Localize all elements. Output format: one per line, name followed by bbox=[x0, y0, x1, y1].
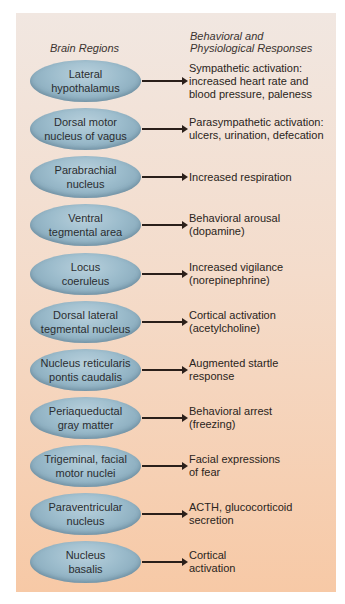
arrow-right-icon bbox=[142, 80, 185, 82]
row-trigeminal-facial: Trigeminal, facial motor nuclei Facial e… bbox=[0, 443, 345, 489]
response-label: Increased respiration bbox=[189, 171, 292, 184]
row-paraventricular-nucleus: Paraventricular nucleus ACTH, glucocorti… bbox=[0, 491, 345, 537]
response-text: Augmented startle response bbox=[189, 347, 339, 393]
response-label: Parasympathetic activation: ulcers, urin… bbox=[189, 116, 324, 142]
response-label: Cortical activation bbox=[189, 549, 235, 575]
responses-header: Behavioral and Physiological Responses bbox=[190, 30, 312, 54]
brain-region-label: Nucleus basalis bbox=[66, 548, 106, 576]
arrow-right-icon bbox=[142, 513, 185, 515]
brain-region-label: Dorsal lateral tegmental nucleus bbox=[41, 308, 130, 336]
response-text: Behavioral arousal (dopamine) bbox=[189, 202, 339, 248]
brain-region-ellipse: Ventral tegmental area bbox=[30, 204, 141, 246]
row-dorsal-lateral-tegmental: Dorsal lateral tegmental nucleus Cortica… bbox=[0, 299, 345, 345]
arrow-right-icon bbox=[142, 561, 185, 563]
response-text: Behavioral arrest (freezing) bbox=[189, 395, 339, 441]
row-periaqueductal-gray: Periaqueductal gray matter Behavioral ar… bbox=[0, 395, 345, 441]
brain-regions-header: Brain Regions bbox=[50, 42, 119, 54]
response-text: Sympathetic activation: increased heart … bbox=[189, 58, 339, 104]
response-text: Facial expressions of fear bbox=[189, 443, 339, 489]
brain-region-ellipse: Lateral hypothalamus bbox=[30, 60, 141, 102]
arrow-right-icon bbox=[142, 128, 185, 130]
arrow-right-icon bbox=[142, 273, 185, 275]
response-label: ACTH, glucocorticoid secretion bbox=[189, 501, 292, 527]
brain-region-label: Parabrachial nucleus bbox=[55, 163, 117, 191]
brain-region-label: Locus coeruleus bbox=[62, 260, 110, 288]
brain-region-ellipse: Locus coeruleus bbox=[30, 253, 141, 295]
arrow-right-icon bbox=[142, 224, 185, 226]
response-text: Cortical activation (acetylcholine) bbox=[189, 299, 339, 345]
response-text: Increased vigilance (norepinephrine) bbox=[189, 251, 339, 297]
brain-region-label: Periaqueductal gray matter bbox=[49, 404, 122, 432]
brain-region-label: Dorsal motor nucleus of vagus bbox=[44, 115, 127, 143]
arrow-right-icon bbox=[142, 417, 185, 419]
row-nucleus-basalis: Nucleus basalis Cortical activation bbox=[0, 539, 345, 585]
brain-region-ellipse: Nucleus basalis bbox=[30, 541, 141, 583]
brain-region-label: Nucleus reticularis pontis caudalis bbox=[41, 356, 131, 384]
arrow-right-icon bbox=[142, 176, 185, 178]
arrow-right-icon bbox=[142, 321, 185, 323]
brain-region-ellipse: Dorsal lateral tegmental nucleus bbox=[30, 301, 141, 343]
brain-region-label: Paraventricular nucleus bbox=[49, 500, 123, 528]
response-label: Sympathetic activation: increased heart … bbox=[189, 62, 312, 101]
brain-region-ellipse: Trigeminal, facial motor nuclei bbox=[30, 445, 141, 487]
response-label: Cortical activation (acetylcholine) bbox=[189, 309, 276, 335]
response-text: Cortical activation bbox=[189, 539, 339, 585]
brain-region-ellipse: Nucleus reticularis pontis caudalis bbox=[30, 349, 141, 391]
row-ventral-tegmental-area: Ventral tegmental area Behavioral arousa… bbox=[0, 202, 345, 248]
response-label: Behavioral arrest (freezing) bbox=[189, 405, 272, 431]
brain-region-ellipse: Periaqueductal gray matter bbox=[30, 397, 141, 439]
row-parabrachial-nucleus: Parabrachial nucleus Increased respirati… bbox=[0, 154, 345, 200]
arrow-right-icon bbox=[142, 465, 185, 467]
response-text: Parasympathetic activation: ulcers, urin… bbox=[189, 106, 339, 152]
brain-region-label: Lateral hypothalamus bbox=[51, 67, 120, 95]
response-text: ACTH, glucocorticoid secretion bbox=[189, 491, 339, 537]
brain-region-ellipse: Dorsal motor nucleus of vagus bbox=[30, 108, 141, 150]
row-nucleus-reticularis: Nucleus reticularis pontis caudalis Augm… bbox=[0, 347, 345, 393]
arrow-right-icon bbox=[142, 369, 185, 371]
brain-region-ellipse: Parabrachial nucleus bbox=[30, 156, 141, 198]
row-dorsal-motor-nucleus: Dorsal motor nucleus of vagus Parasympat… bbox=[0, 106, 345, 152]
response-text: Increased respiration bbox=[189, 154, 339, 200]
brain-region-ellipse: Paraventricular nucleus bbox=[30, 493, 141, 535]
response-label: Increased vigilance (norepinephrine) bbox=[189, 261, 283, 287]
row-lateral-hypothalamus: Lateral hypothalamus Sympathetic activat… bbox=[0, 58, 345, 104]
response-label: Augmented startle response bbox=[189, 357, 278, 383]
response-label: Behavioral arousal (dopamine) bbox=[189, 212, 280, 238]
brain-region-label: Ventral tegmental area bbox=[49, 211, 122, 239]
response-label: Facial expressions of fear bbox=[189, 453, 280, 479]
brain-region-label: Trigeminal, facial motor nuclei bbox=[44, 452, 127, 480]
row-locus-coeruleus: Locus coeruleus Increased vigilance (nor… bbox=[0, 251, 345, 297]
